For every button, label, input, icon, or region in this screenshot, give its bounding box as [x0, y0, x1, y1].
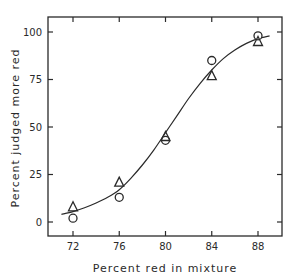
x-tick-label: 76 — [113, 241, 126, 252]
x-tick-label: 84 — [205, 241, 218, 252]
triangle-marker — [207, 71, 216, 80]
y-tick-label: 75 — [29, 74, 42, 85]
y-tick-label: 0 — [36, 217, 42, 228]
plot-frame — [48, 17, 282, 236]
y-tick-label: 100 — [23, 27, 42, 38]
chart: 7276808488 0255075100 Percent red in mix… — [0, 0, 298, 280]
x-tick-label: 88 — [252, 241, 265, 252]
circle-marker — [69, 214, 77, 222]
x-tick-label: 80 — [159, 241, 172, 252]
triangle-marker — [69, 202, 78, 211]
y-tick-label: 25 — [29, 169, 42, 180]
data-points — [69, 32, 263, 222]
fit-curve — [61, 36, 269, 215]
circle-marker — [208, 57, 216, 65]
y-tick-label: 50 — [29, 122, 42, 133]
circle-marker — [115, 193, 123, 201]
x-axis-ticks: 7276808488 — [67, 17, 265, 252]
y-axis-label: Percent judged more red — [9, 48, 22, 207]
x-tick-label: 72 — [67, 241, 80, 252]
x-axis-label: Percent red in mixture — [93, 262, 238, 275]
triangle-marker — [115, 177, 124, 186]
y-axis-ticks: 0255075100 — [23, 27, 282, 228]
